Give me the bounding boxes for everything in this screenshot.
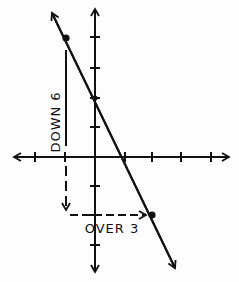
slope-diagram: DOWN 6 OVER 3 [0,0,239,282]
end-point [148,211,155,218]
over-label: OVER 3 [85,221,140,236]
diagram-svg: DOWN 6 OVER 3 [0,0,239,282]
down-label: DOWN 6 [48,91,63,152]
start-point [62,34,69,41]
y-intercept-point [92,95,97,100]
